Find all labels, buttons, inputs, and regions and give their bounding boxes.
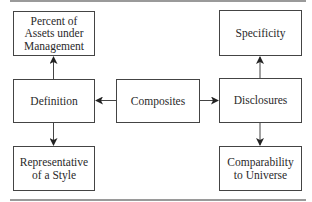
node-comparability: Comparability to Universe	[219, 146, 302, 191]
node-percent-aum: Percent of Assets under Management	[13, 11, 95, 56]
node-composites: Composites	[116, 79, 200, 123]
node-label: Specificity	[236, 27, 286, 40]
node-definition: Definition	[13, 79, 95, 123]
node-label: Comparability to Universe	[227, 156, 293, 181]
node-disclosures: Disclosures	[219, 78, 302, 123]
node-representative: Representative of a Style	[13, 146, 95, 191]
bottom-rule	[10, 199, 306, 201]
node-label: Percent of Assets under Management	[24, 15, 84, 53]
node-label: Representative of a Style	[20, 156, 88, 181]
node-label: Definition	[30, 95, 77, 108]
node-label: Composites	[131, 95, 185, 108]
node-label: Disclosures	[234, 94, 288, 107]
node-specificity: Specificity	[219, 10, 302, 56]
